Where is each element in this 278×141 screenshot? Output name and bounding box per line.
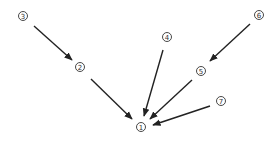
node-4: 4 — [163, 33, 172, 42]
node-label: 7 — [219, 98, 223, 106]
directed-graph: 1234567 — [0, 0, 278, 141]
edge-2-to-1 — [91, 79, 132, 119]
node-7: 7 — [217, 97, 226, 106]
node-6: 6 — [255, 11, 264, 20]
node-label: 4 — [165, 34, 170, 42]
node-3: 3 — [19, 12, 28, 21]
node-1: 1 — [137, 123, 146, 132]
edge-4-to-1 — [144, 50, 163, 116]
node-label: 6 — [257, 12, 262, 20]
node-label: 3 — [21, 13, 25, 21]
node-2: 2 — [76, 63, 85, 72]
nodes-group: 1234567 — [19, 11, 264, 132]
node-5: 5 — [197, 67, 206, 76]
node-label: 5 — [199, 68, 203, 76]
edge-5-to-1 — [150, 80, 192, 119]
edge-6-to-5 — [210, 24, 250, 61]
edges-group — [34, 24, 250, 125]
edge-3-to-2 — [34, 26, 72, 60]
node-label: 1 — [139, 124, 143, 132]
node-label: 2 — [78, 64, 82, 72]
